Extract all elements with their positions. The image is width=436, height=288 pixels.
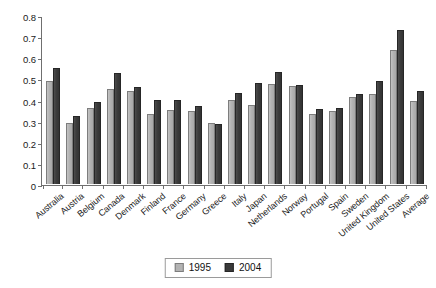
- bar-1995: [107, 89, 114, 184]
- bar-1995: [208, 123, 215, 184]
- legend-item-1995: 1995: [175, 262, 211, 273]
- x-axis-ticks: [43, 185, 427, 189]
- bar-2004: [417, 91, 424, 184]
- x-axis-tick: [265, 185, 285, 189]
- bar-2004: [275, 72, 282, 184]
- bar-group: [43, 17, 63, 184]
- bar-group: [205, 17, 225, 184]
- bar-1995: [268, 84, 275, 184]
- bar-series-container: [43, 17, 427, 184]
- y-axis-tick: [38, 80, 42, 81]
- plot-area: 0.80.70.60.50.40.30.20.10: [41, 17, 427, 186]
- x-axis-tick: [346, 185, 366, 189]
- bar-group: [104, 17, 124, 184]
- bar-group: [63, 17, 83, 184]
- y-axis-tick: [38, 165, 42, 166]
- bar-2004: [114, 73, 121, 184]
- y-axis-tick-label: 0.3: [23, 117, 36, 128]
- bar-group: [225, 17, 245, 184]
- chart-legend: 19952004: [165, 258, 272, 278]
- bar-group: [184, 17, 204, 184]
- x-axis-tick: [144, 185, 164, 189]
- y-axis-tick-label: 0.2: [23, 138, 36, 149]
- bar-group: [83, 17, 103, 184]
- x-axis-tick: [124, 185, 144, 189]
- y-axis-tick-label: 0.1: [23, 159, 36, 170]
- y-axis-tick: [38, 123, 42, 124]
- bar-1995: [289, 86, 296, 184]
- bar-2004: [376, 81, 383, 185]
- bar-1995: [127, 91, 134, 184]
- bar-1995: [87, 108, 94, 184]
- x-axis-tick: [285, 185, 305, 189]
- legend-label: 2004: [239, 262, 261, 273]
- y-axis-tick-label: 0.7: [23, 33, 36, 44]
- bar-1995: [369, 94, 376, 184]
- bar-1995: [410, 101, 417, 184]
- bar-2004: [174, 100, 181, 185]
- x-axis-tick: [245, 185, 265, 189]
- bar-group: [306, 17, 326, 184]
- bar-chart-figure: 0.80.70.60.50.40.30.20.10 AustraliaAustr…: [0, 0, 436, 288]
- y-axis-tick: [38, 17, 42, 18]
- bar-1995: [46, 81, 53, 185]
- bar-2004: [356, 94, 363, 184]
- bar-1995: [188, 111, 195, 184]
- y-axis-tick-label: 0.5: [23, 75, 36, 86]
- bar-2004: [397, 30, 404, 184]
- x-axis-tick: [386, 185, 406, 189]
- bar-group: [164, 17, 184, 184]
- bar-2004: [94, 102, 101, 184]
- bar-1995: [329, 111, 336, 184]
- bar-group: [124, 17, 144, 184]
- bar-1995: [248, 105, 255, 184]
- x-axis-tick: [104, 185, 124, 189]
- bar-1995: [349, 97, 356, 184]
- bar-1995: [147, 114, 154, 184]
- y-axis-tick-label: 0.6: [23, 54, 36, 65]
- x-axis-tick: [43, 185, 63, 189]
- y-axis-tick: [38, 59, 42, 60]
- bar-group: [144, 17, 164, 184]
- bar-1995: [309, 114, 316, 184]
- legend-swatch-icon: [175, 263, 184, 272]
- x-axis-tick: [407, 185, 427, 189]
- x-axis-tick: [306, 185, 326, 189]
- x-axis-tick: [326, 185, 346, 189]
- bar-2004: [154, 100, 161, 185]
- x-axis-tick: [164, 185, 184, 189]
- bar-group: [265, 17, 285, 184]
- bar-group: [366, 17, 386, 184]
- y-axis-tick: [38, 144, 42, 145]
- bar-2004: [53, 68, 60, 184]
- bar-1995: [390, 50, 397, 184]
- y-axis-tick: [38, 38, 42, 39]
- x-axis-tick: [225, 185, 245, 189]
- bar-2004: [336, 108, 343, 184]
- legend-label: 1995: [189, 262, 211, 273]
- bar-group: [386, 17, 406, 184]
- x-axis-tick: [366, 185, 386, 189]
- bar-group: [407, 17, 427, 184]
- bar-group: [285, 17, 305, 184]
- x-axis-labels: AustraliaAustriaBelgiumCanadaDenmarkFinl…: [42, 191, 428, 253]
- x-axis-tick: [184, 185, 204, 189]
- bar-1995: [66, 123, 73, 184]
- bar-1995: [167, 110, 174, 184]
- bar-1995: [228, 100, 235, 185]
- y-axis-tick-label: 0.4: [23, 96, 36, 107]
- bar-group: [326, 17, 346, 184]
- x-axis-tick: [63, 185, 83, 189]
- bar-2004: [73, 116, 80, 184]
- legend-item-2004: 2004: [225, 262, 261, 273]
- bar-2004: [195, 106, 202, 184]
- y-axis-tick: [38, 102, 42, 103]
- bar-group: [245, 17, 265, 184]
- y-axis-tick-label: 0.8: [23, 12, 36, 23]
- bar-2004: [316, 109, 323, 184]
- bar-2004: [134, 87, 141, 184]
- bar-2004: [255, 83, 262, 184]
- bar-group: [346, 17, 366, 184]
- bar-2004: [215, 124, 222, 184]
- y-axis-tick: [38, 186, 42, 187]
